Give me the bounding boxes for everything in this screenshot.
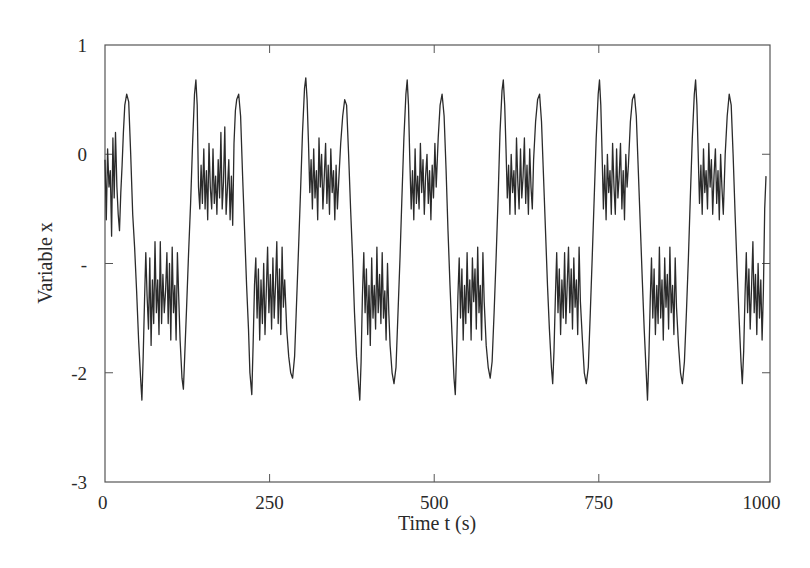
x-tick-label: 0 <box>98 492 108 513</box>
line-chart: 02505007501000 10--2-3 Time t (s) Variab… <box>0 0 810 568</box>
x-axis-label: Time t (s) <box>398 512 476 535</box>
x-tick-label: 250 <box>255 492 284 513</box>
data-line <box>105 78 766 400</box>
x-tick-label: 1000 <box>742 492 780 513</box>
y-axis-label: Variable x <box>34 222 56 304</box>
y-tick-label: - <box>81 254 87 275</box>
x-tick-label: 750 <box>585 492 614 513</box>
y-tick-label: 0 <box>78 144 88 165</box>
y-tick-label: -2 <box>71 363 87 384</box>
y-tick-label: -3 <box>71 472 87 493</box>
x-tick-label: 500 <box>420 492 449 513</box>
y-tick-label: 1 <box>78 35 88 56</box>
